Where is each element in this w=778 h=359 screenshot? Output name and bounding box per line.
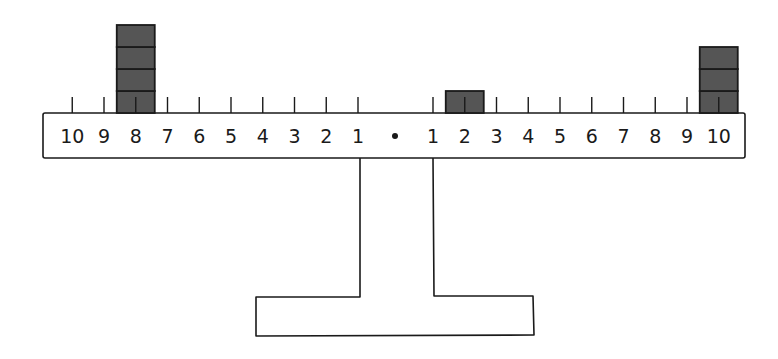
weight-block (700, 69, 738, 91)
position-label: 3 (490, 125, 502, 147)
position-label: 4 (257, 125, 269, 147)
weight-block (700, 47, 738, 69)
weight-block (117, 47, 155, 69)
position-label: 4 (522, 125, 534, 147)
position-label: 7 (161, 125, 173, 147)
position-label: 5 (225, 125, 237, 147)
fulcrum-dot (392, 133, 398, 139)
position-label: 3 (288, 125, 300, 147)
position-label: 2 (459, 125, 471, 147)
weight-stack-left-8 (117, 25, 155, 113)
position-label: 2 (320, 125, 332, 147)
balance-diagram: 1098765432112345678910 (0, 0, 778, 359)
weight-block (117, 69, 155, 91)
position-label: 7 (617, 125, 629, 147)
weight-stacks (117, 25, 738, 113)
position-label: 1 (352, 125, 364, 147)
weight-block (117, 25, 155, 47)
weight-stack-right-10 (700, 47, 738, 113)
position-label: 5 (554, 125, 566, 147)
position-label: 9 (681, 125, 693, 147)
position-label: 9 (98, 125, 110, 147)
position-label: 6 (193, 125, 205, 147)
stand-base (256, 158, 534, 336)
position-label: 8 (649, 125, 661, 147)
position-label: 6 (586, 125, 598, 147)
position-label: 10 (60, 125, 84, 147)
position-label: 10 (707, 125, 731, 147)
tick-marks (72, 97, 719, 113)
position-label: 1 (427, 125, 439, 147)
weight-stack-right-2 (446, 91, 484, 113)
stand (256, 158, 534, 336)
position-label: 8 (130, 125, 142, 147)
